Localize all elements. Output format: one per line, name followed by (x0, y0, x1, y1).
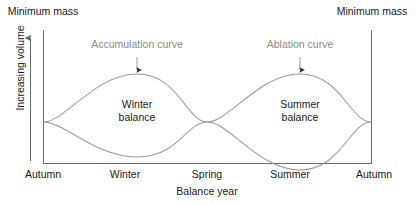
accumulation-curve-annotation: Accumulation curve (91, 38, 183, 51)
winter-balance-line2: balance (119, 111, 156, 124)
minimum-mass-left-label: Minimum mass (8, 5, 79, 18)
x-tick-winter: Winter (110, 168, 140, 181)
winter-balance-label: Winter balance (119, 98, 156, 123)
winter-balance-line1: Winter (119, 98, 156, 111)
ablation-curve-annotation: Ablation curve (267, 38, 334, 51)
minimum-mass-right-label: Minimum mass (337, 5, 408, 18)
summer-balance-line1: Summer (280, 98, 320, 111)
summer-balance-label: Summer balance (280, 98, 320, 123)
ablation-curve (44, 74, 372, 157)
summer-balance-line2: balance (280, 111, 320, 124)
x-tick-autumn-start: Autumn (25, 168, 61, 181)
minimum-mass-left-line1: Minimum mass (8, 5, 79, 18)
x-tick-autumn-end: Autumn (356, 168, 392, 181)
x-axis-label: Balance year (176, 185, 237, 198)
y-axis-label: Increasing volume (14, 20, 26, 116)
x-tick-summer: Summer (270, 168, 310, 181)
x-tick-spring: Spring (192, 168, 222, 181)
glacier-mass-balance-diagram: Minimum mass Minimum mass Increasing vol… (0, 0, 418, 205)
minimum-mass-right-line1: Minimum mass (337, 5, 408, 18)
